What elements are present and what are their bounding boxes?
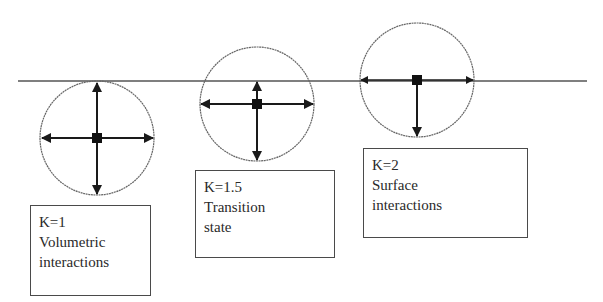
- label-line-1: Volumetric: [39, 232, 150, 252]
- center-square-icon: [92, 133, 102, 143]
- particle-volumetric: [40, 81, 154, 195]
- center-square-icon: [412, 75, 422, 85]
- label-line-2: interactions: [39, 252, 150, 272]
- k-value: K=2: [372, 155, 527, 175]
- label-box-transition: K=1.5 Transition state: [195, 170, 335, 258]
- k-value: K=1: [39, 212, 150, 232]
- center-square-icon: [252, 99, 262, 109]
- label-box-volumetric: K=1 Volumetric interactions: [30, 205, 151, 296]
- label-box-surface: K=2 Surface interactions: [363, 148, 528, 238]
- particle-surface: [360, 23, 474, 137]
- particle-transition: [200, 47, 314, 161]
- label-line-1: Transition: [204, 197, 334, 217]
- label-line-1: Surface: [372, 175, 527, 195]
- label-line-2: state: [204, 217, 334, 237]
- label-line-2: interactions: [372, 195, 527, 215]
- k-value: K=1.5: [204, 177, 334, 197]
